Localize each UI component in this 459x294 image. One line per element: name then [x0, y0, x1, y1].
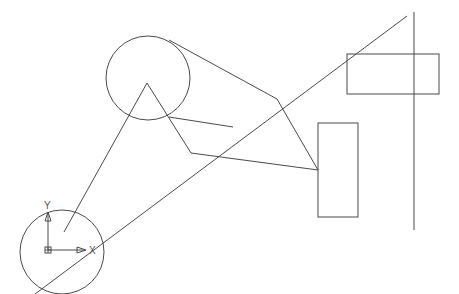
drawing-canvas[interactable]: Y X: [0, 0, 459, 294]
middle-rectangle[interactable]: [318, 123, 358, 217]
node-a-to-rect[interactable]: [277, 99, 318, 170]
ucs-y-label: Y: [44, 200, 51, 211]
ucs-icon: Y X: [44, 200, 96, 256]
triangle-right-edge[interactable]: [147, 83, 191, 153]
upper-right-rectangle[interactable]: [347, 54, 439, 94]
node-b-to-rect[interactable]: [191, 153, 318, 170]
geometry: [20, 12, 439, 294]
upper-circle[interactable]: [106, 36, 190, 120]
tangent-upper[interactable]: [169, 40, 277, 99]
circle-to-diagonal[interactable]: [169, 117, 233, 127]
ucs-x-label: X: [89, 245, 96, 256]
triangle-left-edge[interactable]: [64, 83, 147, 232]
